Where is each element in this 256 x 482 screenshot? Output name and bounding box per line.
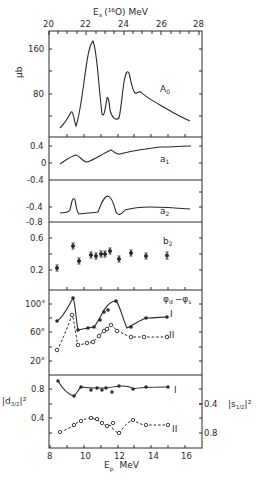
amp-series-II-label: II [172,424,177,434]
amp-series-II-markers [58,416,169,434]
phase-series-II-line [57,315,166,350]
top-axis-title: Ex(¹⁶O) MeV [93,7,149,18]
a2-curve [60,196,190,214]
svg-text:-0.8: -0.8 [26,217,43,227]
svg-text:-0.4: -0.4 [26,202,43,212]
svg-text:10: 10 [80,451,91,461]
svg-text:100°: 100° [25,299,45,309]
a0-curve [60,41,190,128]
svg-text:0.4: 0.4 [31,413,45,423]
bottom-ticks [50,287,185,448]
b2-points [55,243,168,271]
figure: Ex(¹⁶O) MeV 20 22 24 26 28 160 [0,0,256,482]
phase-series-II-markers [55,313,169,352]
svg-text:0: 0 [41,158,46,168]
top-ticks [49,31,199,35]
svg-text:8: 8 [47,451,52,461]
panel-phase: 100° 60° 20° φd−φs I II [25,294,191,366]
top-axis-ticks: 20 22 24 26 28 [43,19,204,29]
panel-a0: 160 80 μb A0 [14,41,190,128]
svg-text:20°: 20° [30,356,45,366]
svg-text:160: 160 [28,44,44,54]
svg-text:0.8: 0.8 [31,384,45,394]
svg-text:0.8: 0.8 [204,428,218,438]
svg-text:80: 80 [33,89,44,99]
amp-series-I-markers [56,379,169,397]
svg-text:24: 24 [118,19,129,29]
svg-text:26: 26 [156,19,167,29]
bottom-axis-title: EpMeV [104,460,140,473]
amp-series-I-label: I [174,385,177,395]
s-ylabel: |s1/2|² [228,399,252,410]
a1-curve [60,146,191,164]
svg-text:28: 28 [193,19,204,29]
panel-amplitudes: 0.8 0.4 |d3/2|² 0.4 0.8 |s1/2|² I II [2,379,252,438]
svg-text:20: 20 [43,19,54,29]
a0-ylabel: μb [14,66,24,78]
d-ylabel: |d3/2|² [2,396,27,407]
svg-text:14: 14 [148,451,159,461]
svg-text:0.4: 0.4 [204,399,218,409]
svg-text:0.4: 0.4 [30,141,44,151]
svg-text:60°: 60° [30,327,45,337]
svg-text:22: 22 [80,19,91,29]
amp-series-II-line [60,418,168,433]
svg-text:-0.4: -0.4 [27,175,44,185]
svg-text:0.6: 0.6 [30,233,44,243]
a1-series-label: a1 [160,154,170,165]
svg-text:0.2: 0.2 [30,265,44,275]
amp-series-I-line [58,381,168,396]
panel-frames [49,31,202,448]
svg-text:16: 16 [181,451,192,461]
phase-label: φd−φs [163,294,191,305]
phase-series-II-label: II [169,330,174,340]
a0-series-label: A0 [160,84,170,95]
b2-series-label: b2 [163,236,173,247]
phase-series-I-label: I [170,309,173,319]
